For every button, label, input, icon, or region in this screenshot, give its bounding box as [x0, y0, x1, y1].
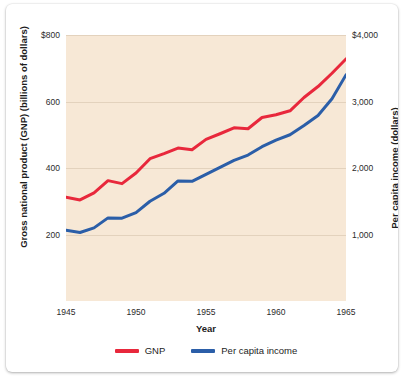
legend-swatch-icon — [115, 349, 139, 353]
y-axis-left-tick-label: 400 — [8, 163, 60, 173]
legend-swatch-icon — [191, 349, 215, 353]
y-axis-left-tick-label: $800 — [8, 30, 60, 40]
plot-area — [66, 35, 346, 301]
x-axis-tick-label: 1950 — [116, 307, 156, 317]
series-lines — [66, 35, 346, 301]
y-axis-right-tick-label: $4,000 — [352, 30, 378, 40]
series-line-gnp — [66, 59, 346, 200]
chart-card: $800600400200 $4,0003,0002,0001,000 1945… — [6, 4, 398, 372]
y-axis-right-title: Per capita income (dollars) — [389, 35, 398, 301]
y-axis-right-tick-label: 1,000 — [352, 230, 373, 240]
y-axis-left-tick-label: 600 — [8, 97, 60, 107]
legend-item: Per capita income — [191, 345, 297, 356]
y-axis-left-tick-label: 200 — [8, 230, 60, 240]
x-axis-tick-label: 1955 — [186, 307, 226, 317]
y-axis-left-title: Gross national product (GNP) (billions o… — [18, 4, 29, 270]
x-axis-tick-label: 1945 — [46, 307, 86, 317]
legend-label: GNP — [145, 345, 166, 356]
legend-item: GNP — [115, 345, 166, 356]
legend-label: Per capita income — [221, 345, 297, 356]
x-axis-tick-label: 1960 — [256, 307, 296, 317]
x-axis-tick-label: 1965 — [326, 307, 366, 317]
x-axis-title: Year — [66, 323, 346, 334]
y-axis-right-tick-label: 2,000 — [352, 163, 373, 173]
chart-legend: GNPPer capita income — [66, 345, 346, 356]
y-axis-right-tick-label: 3,000 — [352, 97, 373, 107]
